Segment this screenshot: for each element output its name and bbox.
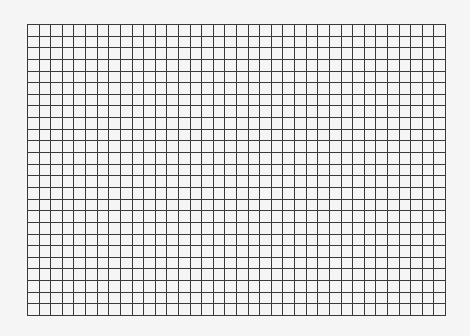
grid-lines bbox=[27, 24, 446, 316]
graph-paper-grid bbox=[27, 24, 445, 315]
